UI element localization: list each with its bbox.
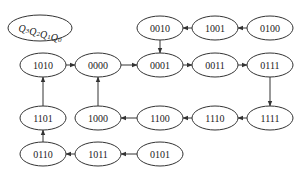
legend-state-variables: Q3Q2Q1Q0 (8, 15, 72, 44)
state-label: 1100 (150, 113, 170, 124)
state-node-0100: 0100 (247, 16, 293, 40)
state-node-1100: 1100 (137, 106, 183, 130)
state-label: 1001 (205, 23, 225, 34)
state-label: 1110 (205, 113, 224, 124)
state-label: 0101 (150, 149, 170, 160)
state-label: 1101 (33, 113, 53, 124)
state-label: 1011 (88, 149, 108, 160)
state-label: 0000 (88, 60, 108, 71)
state-node-0110: 0110 (20, 142, 66, 166)
state-node-1000: 1000 (75, 106, 121, 130)
state-label: 0001 (150, 60, 170, 71)
state-label: 0110 (33, 149, 53, 160)
edges-layer (43, 28, 270, 154)
state-label: 0011 (205, 60, 225, 71)
state-label: 1010 (33, 60, 53, 71)
state-node-0011: 0011 (192, 53, 238, 77)
state-node-0111: 0111 (247, 53, 293, 77)
state-label: 1111 (261, 113, 280, 124)
state-label: 1000 (88, 113, 108, 124)
state-node-0101: 0101 (137, 142, 183, 166)
state-diagram: Q3Q2Q1Q0 0010100101001010000000010011011… (0, 0, 300, 181)
state-node-1011: 1011 (75, 142, 121, 166)
state-node-0010: 0010 (137, 16, 183, 40)
state-node-1101: 1101 (20, 106, 66, 130)
state-node-0001: 0001 (137, 53, 183, 77)
state-node-1110: 1110 (192, 106, 238, 130)
state-label: 0100 (260, 23, 280, 34)
state-label: 0010 (150, 23, 170, 34)
state-node-0000: 0000 (75, 53, 121, 77)
state-node-1111: 1111 (247, 106, 293, 130)
state-label: 0111 (260, 60, 279, 71)
state-node-1001: 1001 (192, 16, 238, 40)
state-node-1010: 1010 (20, 53, 66, 77)
